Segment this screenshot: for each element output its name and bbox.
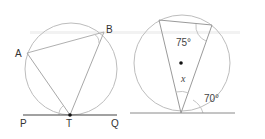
label-Q: Q: [111, 118, 119, 129]
label-B: B: [106, 24, 113, 35]
label-angle-75: 75°: [176, 37, 191, 48]
label-P: P: [20, 118, 27, 129]
geometry-diagram: A B P T Q 75° x 70°: [0, 0, 265, 139]
left-circle: [25, 23, 117, 115]
center-point: [179, 61, 183, 65]
chord-BT: [70, 32, 104, 115]
label-A: A: [15, 48, 22, 59]
label-angle-x: x: [180, 73, 186, 84]
chord-AB: [27, 32, 104, 53]
chord-AT: [27, 53, 70, 115]
angle-mark-B: [94, 34, 99, 43]
label-angle-70: 70°: [204, 93, 219, 104]
label-T: T: [66, 118, 72, 129]
point-T: [68, 113, 72, 117]
left-figure: A B P T Q: [15, 23, 119, 129]
angle-arc-x: [176, 91, 189, 93]
right-figure: 75° x 70°: [130, 15, 235, 113]
